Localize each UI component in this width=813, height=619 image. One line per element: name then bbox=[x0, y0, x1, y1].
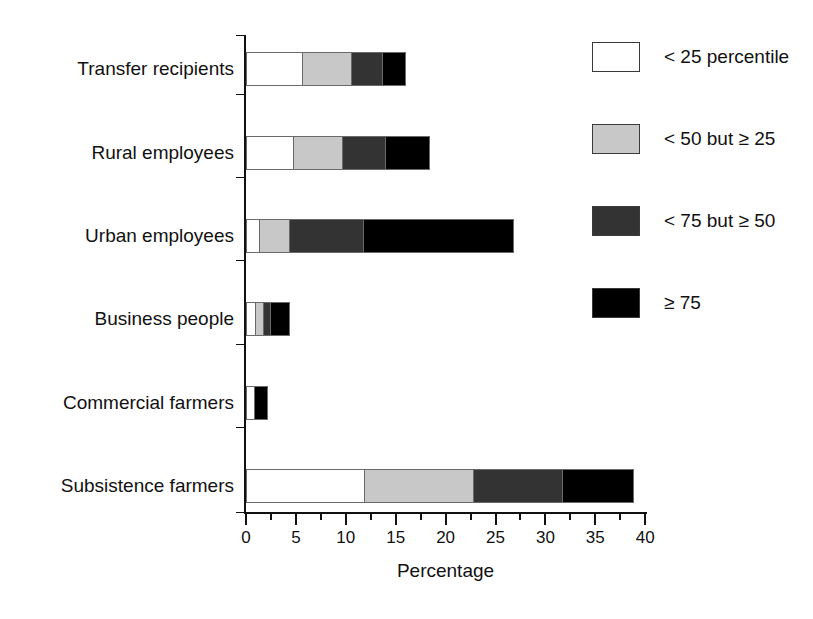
bar-segment bbox=[342, 136, 385, 170]
category-label-text: Urban employees bbox=[85, 225, 234, 247]
legend-item[interactable]: ≥ 75 bbox=[592, 288, 807, 370]
y-axis-tick bbox=[236, 344, 245, 345]
bar-row bbox=[246, 469, 634, 503]
legend-label: < 75 but ≥ 50 bbox=[664, 209, 775, 233]
x-axis-major-tick bbox=[445, 514, 447, 525]
x-axis-tick-label: 15 bbox=[376, 528, 416, 548]
legend-label: ≥ 75 bbox=[664, 291, 701, 315]
bar-segment bbox=[385, 136, 430, 170]
legend-swatch bbox=[592, 42, 640, 72]
x-axis-tick-label: 10 bbox=[326, 528, 366, 548]
legend-swatch bbox=[592, 288, 640, 318]
bar-segment bbox=[246, 469, 364, 503]
bar-row bbox=[246, 52, 406, 86]
x-axis-tick-label: 35 bbox=[575, 528, 615, 548]
category-label-text: Subsistence farmers bbox=[61, 475, 234, 497]
x-axis-minor-tick bbox=[320, 514, 322, 520]
category-label-text: Business people bbox=[95, 308, 234, 330]
y-axis-tick bbox=[236, 177, 245, 178]
x-axis-major-tick bbox=[544, 514, 546, 525]
legend-label: < 50 but ≥ 25 bbox=[664, 127, 775, 151]
bar-segment bbox=[364, 469, 473, 503]
bar-segment bbox=[246, 136, 293, 170]
legend-item[interactable]: < 75 but ≥ 50 bbox=[592, 206, 807, 288]
x-axis-tick-label: 25 bbox=[476, 528, 516, 548]
chart-figure: 0510152025303540 Transfer recipientsRura… bbox=[0, 0, 813, 619]
x-axis-major-tick bbox=[594, 514, 596, 525]
legend-item[interactable]: < 50 but ≥ 25 bbox=[592, 124, 807, 206]
bar-segment bbox=[302, 52, 351, 86]
bar-segment bbox=[246, 52, 302, 86]
x-axis-major-tick bbox=[395, 514, 397, 525]
bar-segment bbox=[289, 219, 363, 253]
x-axis-minor-tick bbox=[270, 514, 272, 520]
bar-row bbox=[246, 219, 514, 253]
category-label-text: Transfer recipients bbox=[77, 58, 234, 80]
category-label-text: Commercial farmers bbox=[63, 392, 234, 414]
bar-segment bbox=[263, 302, 270, 336]
bar-segment bbox=[246, 386, 254, 420]
y-axis-tick bbox=[236, 427, 245, 428]
x-axis-tick-label: 5 bbox=[276, 528, 316, 548]
y-axis-tick bbox=[236, 512, 245, 513]
x-axis-major-tick bbox=[245, 514, 247, 525]
x-axis-minor-tick bbox=[519, 514, 521, 520]
y-axis-tick bbox=[236, 94, 245, 95]
x-axis-minor-tick bbox=[470, 514, 472, 520]
bar-segment bbox=[473, 469, 563, 503]
x-axis-tick-label: 40 bbox=[625, 528, 665, 548]
y-axis-tick bbox=[236, 35, 245, 36]
x-axis-minor-tick bbox=[420, 514, 422, 520]
bar-segment bbox=[259, 219, 289, 253]
x-axis-title: Percentage bbox=[246, 560, 645, 582]
x-axis-tick-label: 20 bbox=[426, 528, 466, 548]
x-axis-major-tick bbox=[495, 514, 497, 525]
legend-label: < 25 percentile bbox=[664, 45, 789, 69]
category-label-text: Rural employees bbox=[91, 142, 234, 164]
legend: < 25 percentile< 50 but ≥ 25< 75 but ≥ 5… bbox=[592, 42, 807, 370]
bar-segment bbox=[293, 136, 342, 170]
bar-segment bbox=[382, 52, 406, 86]
bar-segment bbox=[246, 302, 255, 336]
bar-segment bbox=[255, 302, 263, 336]
x-axis-major-tick bbox=[345, 514, 347, 525]
x-axis-tick-label: 30 bbox=[525, 528, 565, 548]
x-axis-major-tick bbox=[295, 514, 297, 525]
bar-segment bbox=[254, 386, 268, 420]
bar-segment bbox=[363, 219, 515, 253]
x-axis-minor-tick bbox=[569, 514, 571, 520]
bar-segment bbox=[270, 302, 290, 336]
bar-row bbox=[246, 302, 290, 336]
legend-swatch bbox=[592, 206, 640, 236]
y-axis-line bbox=[244, 35, 246, 514]
legend-item[interactable]: < 25 percentile bbox=[592, 42, 807, 124]
bar-row bbox=[246, 386, 268, 420]
bar-segment bbox=[351, 52, 382, 86]
x-axis-minor-tick bbox=[619, 514, 621, 520]
bar-segment bbox=[246, 219, 259, 253]
x-axis-tick-label: 0 bbox=[226, 528, 266, 548]
x-axis-major-tick bbox=[644, 514, 646, 525]
legend-swatch bbox=[592, 124, 640, 154]
bar-row bbox=[246, 136, 430, 170]
y-axis-tick bbox=[236, 260, 245, 261]
bar-segment bbox=[562, 469, 634, 503]
x-axis-minor-tick bbox=[370, 514, 372, 520]
